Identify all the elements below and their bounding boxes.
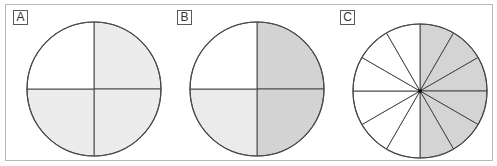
pie-segment <box>190 89 257 156</box>
center-dot <box>418 89 422 93</box>
circle-a-quarters <box>27 22 161 156</box>
circle-b-quarters <box>190 22 324 156</box>
fraction-circles <box>0 0 497 166</box>
circle-c-twelfths <box>353 24 487 158</box>
pie-segment <box>257 89 324 156</box>
pie-segment <box>27 89 94 156</box>
pie-segment <box>190 22 257 89</box>
pie-segment <box>257 22 324 89</box>
pie-segment <box>27 22 94 89</box>
pie-segment <box>94 89 161 156</box>
pie-segment <box>94 22 161 89</box>
